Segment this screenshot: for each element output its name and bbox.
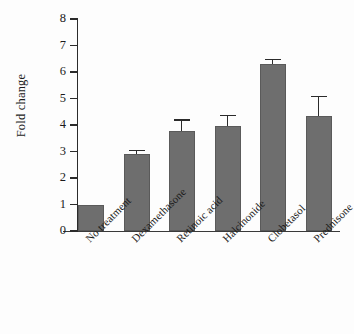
error-bar-cap: [265, 59, 281, 60]
error-bar-stem: [272, 60, 273, 64]
bar: [169, 131, 195, 231]
error-bar-cap: [311, 96, 327, 97]
error-bar-cap: [174, 119, 190, 120]
bar-chart-figure: Fold change 012345678 No treatmentDexame…: [0, 0, 354, 334]
error-bar-stem: [227, 116, 228, 126]
bar-group: [306, 116, 332, 231]
bar: [306, 116, 332, 231]
plot-area: [0, 0, 354, 334]
error-bar-cap: [129, 150, 145, 151]
bar: [215, 126, 241, 231]
error-bar-stem: [181, 121, 182, 132]
bar-group: [169, 131, 195, 231]
bar-group: [215, 126, 241, 231]
error-bar-stem: [318, 97, 319, 116]
error-bar-stem: [136, 151, 137, 154]
error-bar-cap: [220, 115, 236, 116]
